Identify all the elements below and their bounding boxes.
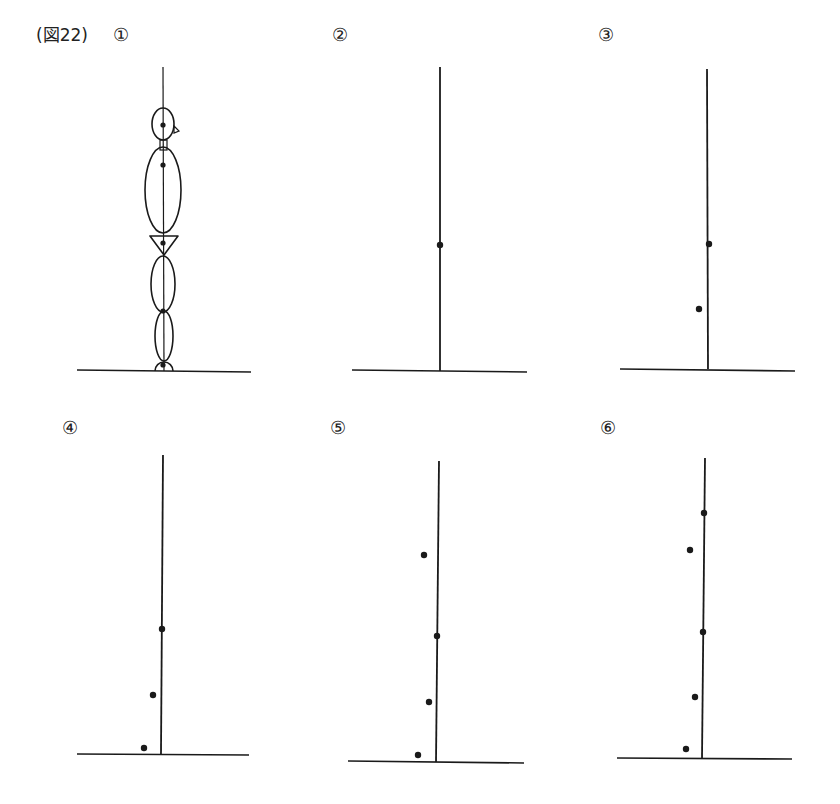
joint-dot [692,694,698,700]
ground-line [620,369,795,371]
vertical-axis-line [707,69,708,369]
joint-dot [687,547,693,553]
panel-4 [77,455,249,755]
vertical-axis-line [436,461,439,762]
joint-dot [696,306,702,312]
nose-triangle [174,126,179,133]
panel-6 [617,458,792,759]
joint-dot [160,240,165,245]
vertical-axis-line [702,458,705,758]
joint-dot [683,746,689,752]
panel-2 [352,67,527,372]
diagram-canvas [0,0,840,804]
joint-dot [160,122,165,127]
joint-dot [141,745,147,751]
panel-3 [620,69,795,371]
joint-dot [160,162,165,167]
joint-dot [415,752,421,758]
joint-dot [150,692,156,698]
joint-dot [421,552,427,558]
joint-dot [700,629,706,635]
vertical-axis-line [161,455,163,754]
joint-dot [160,362,165,367]
panel-5 [348,461,524,763]
joint-dot [706,241,712,247]
panels-layer [77,67,795,763]
joint-dot [426,699,432,705]
thigh-ellipse [151,256,175,312]
ground-line [617,758,792,759]
joint-dot [159,626,165,632]
joint-dot [434,633,440,639]
joint-dot [160,308,165,313]
ground-line [77,754,249,755]
joint-dot [701,510,707,516]
vertical-axis-line [163,67,164,371]
joint-dot [437,242,443,248]
panel-1 [77,67,251,372]
